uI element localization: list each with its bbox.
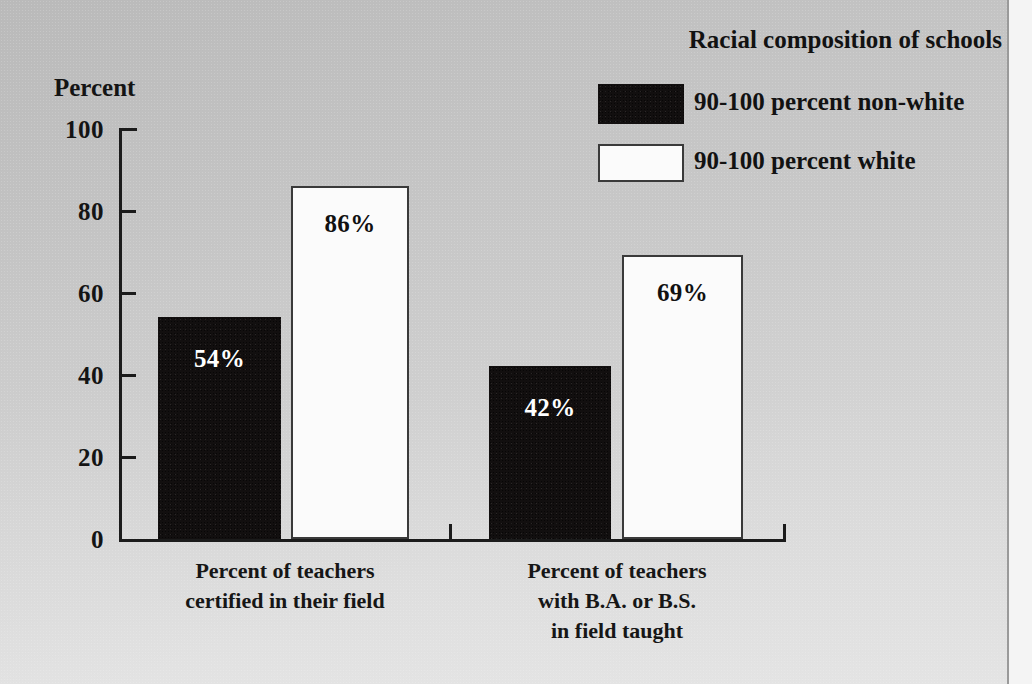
bar-group2-non-white[interactable]: 42%	[489, 366, 611, 539]
legend-item-white[interactable]: 90-100 percent white	[590, 144, 1002, 182]
category-label-group2-line1: Percent of teachers	[482, 556, 752, 586]
category-label-group2-line2: with B.A. or B.S.	[482, 586, 752, 616]
y-tick-label-0: 0	[46, 526, 104, 554]
category-label-group1-line2: certified in their field	[150, 586, 420, 616]
y-axis-top-tick	[119, 128, 137, 131]
bar-group2-white[interactable]: 69%	[622, 255, 743, 539]
category-label-group2-line3: in field taught	[482, 616, 752, 646]
bar-value-label: 86%	[293, 210, 407, 238]
y-tick-20	[119, 456, 136, 459]
y-tick-label-40: 40	[46, 362, 104, 390]
category-label-group1-line1: Percent of teachers	[150, 556, 420, 586]
page-outer-margin	[1009, 0, 1032, 684]
category-label-group2: Percent of teachers with B.A. or B.S. in…	[482, 556, 752, 646]
legend-swatch-white	[598, 144, 684, 182]
y-axis-line	[119, 128, 122, 542]
bar-value-label: 42%	[489, 394, 611, 422]
legend-title: Racial composition of schools	[590, 26, 1002, 54]
bar-group1-non-white[interactable]: 54%	[158, 317, 281, 539]
legend-swatch-black	[598, 84, 684, 124]
legend-label-white: 90-100 percent white	[694, 147, 916, 175]
y-tick-label-60: 60	[46, 280, 104, 308]
chart-page: Percent 100 80 60 40 20 0 54% 86% 42% 69	[0, 0, 1032, 684]
y-tick-40	[119, 374, 136, 377]
bar-value-label: 69%	[624, 279, 741, 307]
legend-label-non-white: 90-100 percent non-white	[694, 88, 964, 116]
y-tick-60	[119, 292, 136, 295]
category-label-group1: Percent of teachers certified in their f…	[150, 556, 420, 616]
y-tick-80	[119, 210, 136, 213]
bar-group1-white[interactable]: 86%	[291, 186, 409, 539]
y-tick-label-20: 20	[46, 444, 104, 472]
bar-value-label: 54%	[158, 345, 281, 373]
x-axis-line	[119, 539, 786, 542]
x-axis-end-tick	[783, 524, 786, 542]
bar-chart-plot-area: Percent 100 80 60 40 20 0 54% 86% 42% 69	[0, 0, 1008, 684]
y-axis-title: Percent	[54, 74, 135, 102]
y-tick-label-100: 100	[46, 116, 104, 144]
category-separator-tick	[449, 524, 452, 542]
y-tick-label-80: 80	[46, 198, 104, 226]
legend-item-non-white[interactable]: 90-100 percent non-white	[590, 84, 1002, 124]
